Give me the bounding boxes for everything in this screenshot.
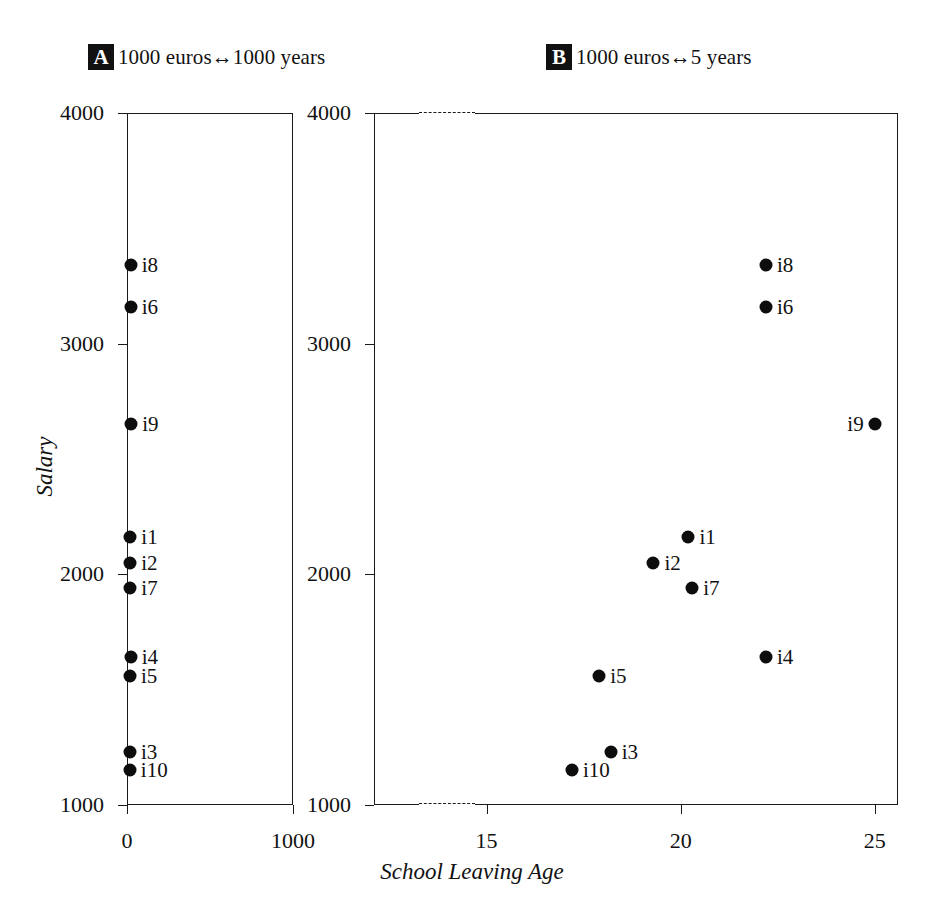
panel-b-y-ticklabel: 4000 [181,102,351,124]
panel-a-y-ticklabel: 4000 [0,102,104,124]
data-point-i3[interactable] [124,745,137,758]
data-point-i7[interactable] [686,582,699,595]
data-point-i5[interactable] [123,669,136,682]
data-point-i9[interactable] [868,418,881,431]
panel-b-x-tick [681,805,682,814]
panel-b-x-tick [487,805,488,814]
panel-a-x-tick [127,805,128,814]
data-point-label-i1: i1 [699,527,715,548]
data-point-label-i9: i9 [847,414,863,435]
panel-a-tag: A [88,44,114,70]
data-point-i4[interactable] [760,651,773,664]
panel-b-y-ticklabel: 3000 [181,333,351,355]
data-point-label-i6: i6 [142,296,158,317]
data-point-i5[interactable] [593,669,606,682]
panel-b-y-tick [365,113,374,114]
panel-b-y-tick [365,344,374,345]
data-point-i1[interactable] [682,531,695,544]
panel-b-top-break-dash [419,112,475,113]
panel-a-y-tick [118,805,127,806]
scatter-figure: A 1000 euros↔1000 years B 1000 euros↔5 y… [0,0,946,911]
data-point-label-i5: i5 [141,665,157,686]
data-point-i8[interactable] [124,259,137,272]
panel-a-y-tick [118,574,127,575]
panel-b-plot-frame [374,113,898,805]
y-axis-title: Salary [33,417,56,517]
data-point-label-i10: i10 [583,760,610,781]
data-point-label-i8: i8 [142,255,158,276]
data-point-label-i6: i6 [777,296,793,317]
data-point-i10[interactable] [565,764,578,777]
panel-b-x-ticklabel: 25 [864,830,886,852]
panel-b-y-ticklabel: 1000 [181,794,351,816]
panel-a-y-ticklabel: 3000 [0,333,104,355]
data-point-i4[interactable] [124,651,137,664]
x-axis-title: School Leaving Age [322,860,622,883]
data-point-i10[interactable] [123,764,136,777]
data-point-i7[interactable] [124,582,137,595]
data-point-i6[interactable] [760,300,773,313]
panel-b-y-ticklabel: 2000 [181,563,351,585]
panel-b-x-tick [875,805,876,814]
panel-a-header: A 1000 euros↔1000 years [88,44,325,70]
panel-b-top-break-mask [419,110,475,116]
panel-b-y-tick [365,574,374,575]
data-point-label-i8: i8 [777,255,793,276]
data-point-i1[interactable] [124,531,137,544]
data-point-label-i1: i1 [141,527,157,548]
data-point-i6[interactable] [124,300,137,313]
panel-a-y-tick [118,344,127,345]
data-point-i2[interactable] [124,556,137,569]
data-point-i3[interactable] [604,745,617,758]
data-point-label-i3: i3 [622,741,638,762]
data-point-i9[interactable] [125,418,138,431]
data-point-label-i2: i2 [141,552,157,573]
panel-b-y-tick [365,805,374,806]
data-point-label-i9: i9 [142,414,158,435]
data-point-label-i7: i7 [141,578,157,599]
data-point-i2[interactable] [647,556,660,569]
panel-b-x-ticklabel: 15 [476,830,498,852]
data-point-label-i5: i5 [610,665,626,686]
panel-a-caption: 1000 euros↔1000 years [118,45,325,70]
panel-b-header: B 1000 euros↔5 years [546,44,752,70]
panel-a-plot-frame [127,113,293,805]
panel-a-x-ticklabel: 1000 [271,830,315,852]
data-point-label-i10: i10 [141,760,168,781]
panel-b-bottom-break-dash [419,803,475,804]
panel-a-y-ticklabel: 2000 [0,563,104,585]
panel-a-x-ticklabel: 0 [122,830,133,852]
data-point-label-i7: i7 [703,578,719,599]
data-point-i8[interactable] [760,259,773,272]
data-point-label-i4: i4 [777,647,793,668]
panel-b-x-ticklabel: 20 [670,830,692,852]
panel-a-y-tick [118,113,127,114]
data-point-label-i2: i2 [664,552,680,573]
panel-b-tag: B [546,44,572,70]
panel-a-y-ticklabel: 1000 [0,794,104,816]
panel-b-caption: 1000 euros↔5 years [576,45,752,70]
